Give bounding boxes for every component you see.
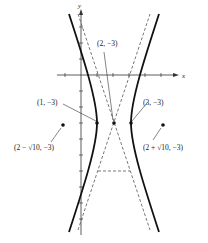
- focus-left-point: [61, 123, 65, 127]
- focus-right-point: [161, 123, 165, 127]
- points: [61, 121, 165, 127]
- y-axis-label: y: [77, 2, 82, 10]
- focus-left-label: (2 − √10, −3): [14, 143, 55, 152]
- vertex-left-point: [95, 121, 99, 125]
- focus-right-label: (2 + √10, −3): [143, 143, 184, 152]
- vertex-left-label: (1, −3): [37, 98, 58, 107]
- x-axis-label: x: [181, 72, 186, 80]
- vertex-right-point: [129, 121, 133, 125]
- right-branch: [131, 14, 159, 232]
- x-axis-arrow-icon: [173, 73, 179, 77]
- center-point: [112, 121, 116, 125]
- center-label: (2, −3): [97, 39, 118, 48]
- hyperbola-figure: x y (2, −3) (1, −3) (3, −3) (2 − √10, −3…: [0, 0, 208, 243]
- vertex-right-label: (3, −3): [143, 98, 164, 107]
